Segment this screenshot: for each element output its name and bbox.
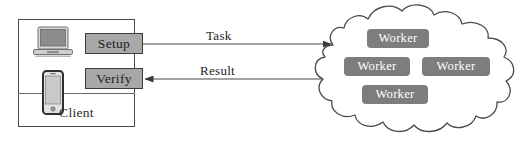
worker-box[interactable]: Worker	[344, 57, 410, 76]
verify-label: Verify	[96, 71, 132, 87]
result-edge-label: Result	[200, 63, 235, 79]
worker-label: Worker	[379, 31, 418, 46]
worker-box[interactable]: Worker	[367, 29, 429, 48]
verify-box[interactable]: Verify	[85, 68, 143, 89]
setup-box[interactable]: Setup	[85, 33, 143, 54]
worker-box[interactable]: Worker	[422, 57, 490, 76]
client-label: Client	[18, 105, 135, 121]
cloud-shape	[310, 0, 531, 148]
laptop-icon	[33, 26, 73, 60]
worker-label: Worker	[437, 59, 476, 74]
worker-label: Worker	[358, 59, 397, 74]
worker-box[interactable]: Worker	[362, 85, 428, 104]
task-edge-label: Task	[206, 28, 232, 44]
worker-label: Worker	[376, 87, 415, 102]
client-box-divider	[18, 93, 135, 94]
diagram-canvas: Setup Verify Client Worker Worker Worker…	[0, 0, 531, 148]
setup-label: Setup	[98, 36, 130, 52]
